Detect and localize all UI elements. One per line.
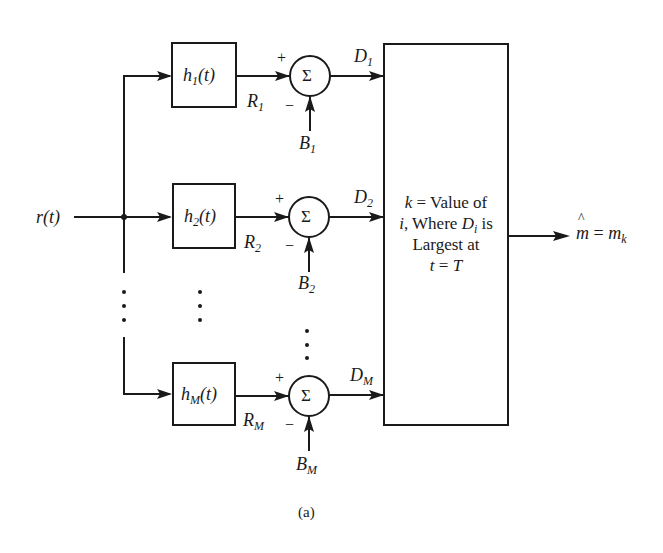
D-label-2: D2 (354, 188, 373, 209)
D-sub: 2 (367, 196, 373, 210)
D-var: D (462, 214, 474, 233)
ellipsis-dot (198, 318, 202, 322)
B-sub: 2 (309, 282, 315, 296)
filter-arg: (t) (200, 384, 217, 404)
ellipsis-dot (305, 329, 309, 333)
minus-sign-M: − (285, 417, 294, 433)
bus-lower (124, 337, 170, 394)
plus-sign-M: + (275, 370, 284, 386)
figure-caption: (a) (298, 505, 315, 520)
filter-sub: M (190, 393, 200, 407)
D-label-1: D1 (354, 47, 373, 68)
diagram-lines (0, 0, 663, 553)
ellipsis-dot (198, 290, 202, 294)
decision-text: , Where (404, 214, 462, 233)
R-sub: 2 (255, 241, 261, 255)
bus-upper (124, 76, 170, 273)
filter-arg: (t) (198, 65, 215, 85)
filter-arg: (t) (199, 206, 216, 226)
m-sub: k (621, 232, 626, 246)
ellipsis-dot (198, 304, 202, 308)
input-var: r (36, 207, 43, 227)
decision-text: is (477, 214, 493, 233)
D-var: D (354, 187, 367, 207)
B-label-1: B1 (299, 134, 316, 155)
output-label: m^ = mk (576, 224, 626, 245)
ellipsis-dot (122, 290, 126, 294)
sigma-symbol-1: Σ (302, 67, 312, 84)
D-label-M: DM (350, 366, 373, 387)
hat-accent: ^ (578, 212, 585, 226)
D-var: D (350, 365, 363, 385)
decision-text: = (435, 256, 453, 275)
ellipsis-dot (122, 304, 126, 308)
filter-h: h (183, 65, 192, 85)
ellipsis-dot (305, 356, 309, 360)
B-label-2: B2 (298, 274, 315, 295)
B-sub: M (307, 463, 317, 477)
sigma-symbol-M: Σ (301, 387, 311, 404)
D-var: D (354, 46, 367, 66)
ellipsis-dot (122, 318, 126, 322)
decision-rule-line-3: Largest at (384, 234, 508, 255)
filter-label-M: hM(t) (181, 385, 217, 406)
filter-h: h (181, 384, 190, 404)
R-sub: M (254, 419, 264, 433)
T-var: T (453, 256, 462, 275)
m-hat-var: m (576, 223, 589, 243)
minus-sign-1: − (285, 98, 294, 114)
filter-h: h (184, 206, 193, 226)
plus-sign-1: + (277, 50, 286, 66)
m-hat: m^ (576, 223, 589, 243)
R-sub: 1 (258, 100, 264, 114)
D-sub: 1 (367, 55, 373, 69)
m-var: m (608, 223, 621, 243)
matched-filter-receiver-diagram: r(t) h1(t) h2(t) hM(t) R1 R2 RM + − + − … (0, 0, 663, 553)
R-label-M: RM (243, 411, 264, 432)
decision-text: = Value of (412, 193, 487, 212)
minus-sign-2: − (285, 238, 294, 254)
R-var: R (243, 410, 254, 430)
ellipsis-dot (305, 343, 309, 347)
R-label-2: R2 (244, 233, 261, 254)
sigma-symbol-2: Σ (301, 208, 311, 225)
filter-label-1: h1(t) (183, 66, 215, 87)
decision-rule-line-4: t = T (384, 255, 508, 276)
R-var: R (244, 232, 255, 252)
B-label-M: BM (296, 455, 317, 476)
B-sub: 1 (310, 142, 316, 156)
B-var: B (296, 454, 307, 474)
input-label: r(t) (36, 208, 60, 226)
R-var: R (247, 91, 258, 111)
R-label-1: R1 (247, 92, 264, 113)
B-var: B (299, 133, 310, 153)
plus-sign-2: + (275, 191, 284, 207)
filter-label-2: h2(t) (184, 207, 216, 228)
B-var: B (298, 273, 309, 293)
decision-rule-line-1: k = Value of (384, 192, 508, 213)
D-sub: M (363, 374, 373, 388)
equals: = (589, 223, 608, 243)
input-arg: (t) (43, 207, 60, 227)
